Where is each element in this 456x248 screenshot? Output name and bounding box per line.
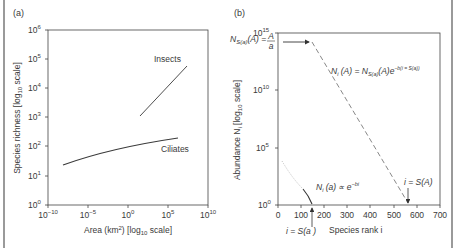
panel-a-x-axis-label: Area (km2) [log10 scale]: [84, 225, 172, 236]
x-tick-label: 600: [410, 210, 424, 220]
regional-richness-marker-label: i = S(A): [404, 177, 433, 187]
y-tick-label: 1010: [253, 84, 270, 95]
panel-b-y-ticks: 100 105 1010 1015: [253, 27, 278, 210]
panel-b-x-ticks: 0 100 200 300 400 500 600 700: [276, 205, 448, 220]
local-abundance-equation: Ni (a) ∝ e−bi: [316, 181, 360, 193]
y-tick-label: 105: [256, 142, 269, 153]
frame-border-right: [451, 0, 453, 248]
y-tick-label: 104: [28, 82, 41, 93]
svg-text:NS(a)(A) =: NS(a)(A) =: [230, 34, 266, 45]
x-tick-label: 200: [317, 210, 331, 220]
ciliates-label: Ciliates: [161, 144, 189, 154]
local-abundance-solid-curve: [303, 189, 312, 204]
x-tick-label: 10−10: [38, 209, 58, 220]
panel-a-y-ticks: 100 101 102 103 104 105 106: [28, 24, 48, 210]
panel-a-y-axis-label: Species richness [log10 scale]: [12, 62, 23, 174]
y-tick-label: 100: [28, 199, 41, 210]
plateau-equation: NS(a)(A) = A a: [230, 31, 275, 51]
panel-a-label: (a): [13, 8, 24, 18]
x-tick-label: 1010: [200, 209, 217, 220]
local-richness-marker-label: i = S(a ): [286, 226, 316, 236]
y-tick-label: 103: [28, 111, 41, 122]
insects-line: [140, 66, 187, 116]
frame-border-left: [3, 0, 5, 248]
panel-b-x-axis-label: Species rank i: [329, 225, 382, 235]
svg-text:A: A: [267, 31, 274, 41]
panel-b-label: (b): [234, 8, 245, 18]
y-tick-label: 101: [28, 170, 41, 181]
x-tick-label: 700: [433, 210, 447, 220]
x-tick-label: 300: [340, 210, 354, 220]
panel-a: (a) 100 101 102 103 104 105 106: [12, 8, 217, 236]
figure-svg: (a) 100 101 102 103 104 105 106: [0, 0, 456, 248]
x-tick-label: 100: [294, 210, 308, 220]
x-tick-label: 400: [363, 210, 377, 220]
panel-b-y-axis-label: Abundance Ni [log10 scale]: [232, 80, 243, 180]
x-tick-label: 105: [162, 209, 175, 220]
local-abundance-dotted-curve: [282, 161, 303, 189]
figure-frame: (a) 100 101 102 103 104 105 106: [0, 0, 456, 248]
panel-a-axes: [48, 30, 208, 205]
x-tick-label: 100: [122, 209, 135, 220]
panel-a-x-ticks: 10−10 10−5 100 105 1010: [38, 205, 217, 220]
x-tick-label: 500: [387, 210, 401, 220]
y-tick-label: 106: [28, 24, 41, 35]
panel-b: (b) 100 105 1010 1015: [230, 8, 447, 236]
svg-text:a: a: [269, 41, 274, 51]
y-tick-label: 100: [258, 199, 271, 210]
y-tick-label: 105: [28, 53, 41, 64]
insects-label: Insects: [154, 54, 181, 64]
regional-abundance-equation: Ni (A) = NS(a)(A)e−b(i = S(a)): [331, 65, 420, 77]
x-tick-label: 0: [276, 210, 281, 220]
x-tick-label: 10−5: [80, 209, 97, 220]
y-tick-label: 102: [28, 140, 41, 151]
